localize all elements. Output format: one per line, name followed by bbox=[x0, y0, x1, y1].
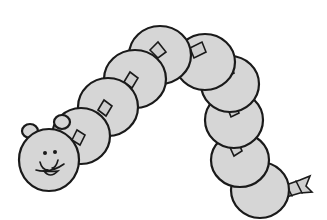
left-eye bbox=[43, 151, 47, 155]
right-eye bbox=[53, 150, 57, 154]
caterpillar-illustration bbox=[0, 0, 327, 220]
head-circle bbox=[19, 129, 79, 191]
right-ear bbox=[54, 115, 70, 129]
